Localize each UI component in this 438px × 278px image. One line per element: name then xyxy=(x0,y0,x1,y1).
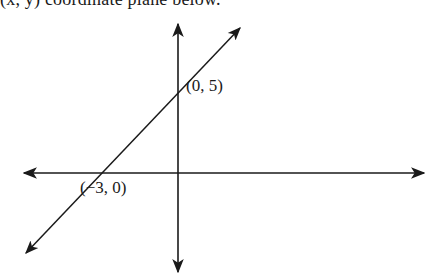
coordinate-plane xyxy=(0,0,438,278)
graphed-line xyxy=(26,28,240,253)
y-intercept-label: (0, 5) xyxy=(186,76,223,96)
x-intercept-label: (−3, 0) xyxy=(80,178,126,198)
